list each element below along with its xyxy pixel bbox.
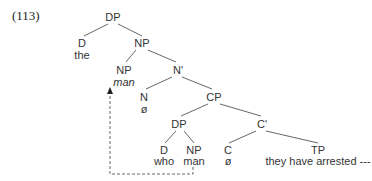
node-dp-root: DP (105, 11, 120, 23)
node-cp: CP (206, 91, 221, 103)
node-n-bar: N' (173, 64, 183, 76)
word-who: who (153, 155, 174, 167)
arrowhead-icon (107, 87, 113, 94)
word-the: the (74, 49, 89, 61)
word-man-wh: man (183, 155, 204, 167)
word-man-head: man (113, 76, 134, 88)
node-np-top: NP (134, 37, 149, 49)
node-d-top: D (78, 37, 86, 49)
node-np-head: NP (116, 64, 131, 76)
word-tp-content: they have arrested --- (265, 155, 370, 167)
word-null-n: ø (141, 103, 148, 115)
node-c-bar: C' (257, 118, 267, 130)
node-dp-wh: DP (171, 118, 186, 130)
movement-arrow (107, 87, 193, 174)
word-null-c: ø (225, 155, 232, 167)
syntax-tree: DP D the NP NP man N' N ø CP DP C' D who… (0, 0, 372, 181)
node-n: N (140, 91, 148, 103)
